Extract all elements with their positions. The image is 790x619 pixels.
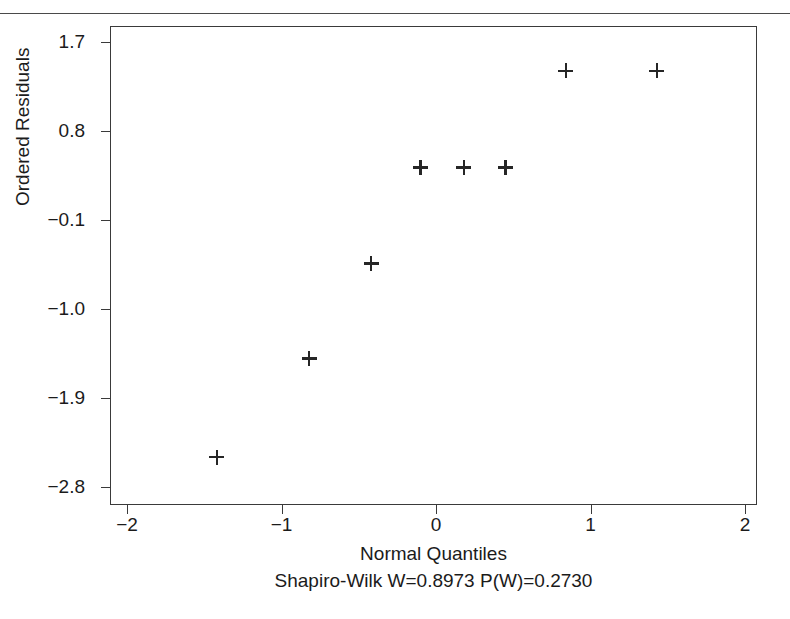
x-tick-label: 1 [561, 514, 621, 536]
x-tick-mark [127, 505, 128, 514]
x-tick-mark [591, 505, 592, 514]
x-tick-mark [436, 505, 437, 514]
y-tick-mark [101, 487, 110, 488]
data-point-marker [558, 63, 573, 78]
data-point-marker [456, 160, 471, 175]
data-point-marker [209, 450, 224, 465]
shapiro-wilk-annotation: Shapiro-Wilk W=0.8973 P(W)=0.2730 [110, 570, 757, 592]
data-point-marker [649, 63, 664, 78]
normal-probability-plot: Ordered Residuals Normal Quantiles Shapi… [0, 0, 790, 619]
x-tick-label: −2 [97, 514, 157, 536]
y-tick-label: −1.0 [5, 299, 85, 318]
plot-area-frame [110, 26, 757, 505]
y-tick-mark [101, 220, 110, 221]
data-point-marker [413, 160, 428, 175]
y-tick-mark [101, 309, 110, 310]
x-tick-mark [745, 505, 746, 514]
y-tick-mark [101, 398, 110, 399]
y-tick-mark [101, 42, 110, 43]
y-tick-label: −1.9 [5, 388, 85, 407]
y-tick-label: 1.7 [5, 32, 85, 51]
y-tick-label: −0.1 [5, 210, 85, 229]
x-tick-label: 2 [715, 514, 775, 536]
x-tick-mark [282, 505, 283, 514]
y-tick-label: −2.8 [5, 477, 85, 496]
y-tick-label: 0.8 [5, 121, 85, 140]
x-axis-title: Normal Quantiles [110, 543, 757, 565]
data-point-marker [302, 351, 317, 366]
y-tick-mark [101, 131, 110, 132]
data-point-marker [498, 160, 513, 175]
x-tick-label: −1 [252, 514, 312, 536]
x-tick-label: 0 [406, 514, 466, 536]
data-point-marker [364, 256, 379, 271]
